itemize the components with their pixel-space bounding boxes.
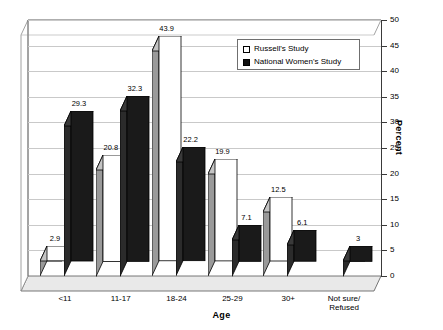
bar-3d-body xyxy=(176,147,207,278)
bar xyxy=(127,111,149,276)
bar-3d-body xyxy=(232,225,263,278)
bar-value-label: 19.9 xyxy=(205,148,241,156)
bar-3d-body xyxy=(343,246,374,278)
bar xyxy=(183,162,205,276)
legend-swatch-white-icon xyxy=(243,46,250,53)
bar xyxy=(71,126,93,276)
bar xyxy=(239,240,261,276)
bar-value-label: 22.2 xyxy=(173,136,209,144)
bar-3d-body xyxy=(64,111,95,278)
bar xyxy=(294,245,316,276)
bar-value-label: 43.9 xyxy=(149,25,185,33)
legend-label: National Women's Study xyxy=(254,58,341,66)
bar xyxy=(350,261,372,276)
bar-value-label: 12.5 xyxy=(260,186,296,194)
legend-swatch-black-icon xyxy=(243,59,250,66)
legend-item-national-womens-study: National Women's Study xyxy=(243,56,359,68)
bar-3d-body xyxy=(287,230,318,278)
bar-value-label: 29.3 xyxy=(61,100,97,108)
bar-value-label: 3 xyxy=(340,235,376,243)
bar-chart: 05101520253035404550 Percent 2.929.320.8… xyxy=(0,0,443,330)
legend-item-russells-study: Russell's Study xyxy=(243,43,359,55)
bar-value-label: 7.1 xyxy=(229,214,265,222)
legend: Russell's Study National Women's Study xyxy=(237,39,360,70)
bar-3d-body xyxy=(120,96,151,278)
bar-value-label: 6.1 xyxy=(284,219,320,227)
bar-value-label: 32.3 xyxy=(117,85,153,93)
legend-label: Russell's Study xyxy=(254,45,308,53)
bars-layer: 2.929.320.832.343.922.219.97.112.56.13 xyxy=(0,0,443,330)
x-axis-title: Age xyxy=(0,310,443,320)
